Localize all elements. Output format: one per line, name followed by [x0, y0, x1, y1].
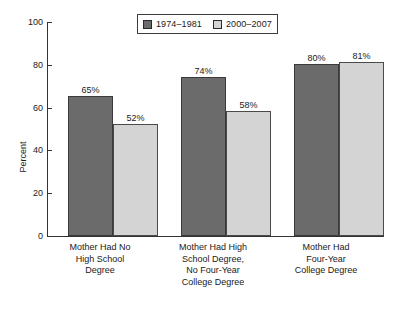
bar-group2-series2: 58%: [226, 111, 271, 236]
y-axis-line: [47, 22, 48, 237]
bar-group1-series2: 52%: [113, 124, 158, 236]
y-tick-label-20: 20: [33, 189, 43, 198]
y-tick-label-100: 100: [28, 18, 43, 27]
bar-group2-series1: 74%: [181, 77, 226, 236]
plot-area: 100 80 60 40 20 0 65% 52%: [47, 22, 384, 237]
x-axis-line: [47, 236, 384, 237]
x-axis-category-label-1: Mother Had No High School Degree: [44, 242, 156, 277]
bar-value-group2-series1: 74%: [194, 67, 212, 76]
bar-chart: 1974–1981 2000–2007 Percent 100 80 60 40: [0, 0, 403, 313]
bar-value-group3-series1: 80%: [307, 54, 325, 63]
bar-value-group1-series2: 52%: [126, 114, 144, 123]
x-axis-category-label-3: Mother Had Four-Year College Degree: [270, 242, 382, 277]
y-tick-label-0: 0: [38, 232, 43, 241]
y-tick-label-60: 60: [33, 103, 43, 112]
bar-value-group2-series2: 58%: [239, 101, 257, 110]
bar-value-group1-series1: 65%: [81, 86, 99, 95]
bar-group3-series1: 80%: [294, 64, 339, 236]
y-tick-label-80: 80: [33, 60, 43, 69]
y-axis-title: Percent: [19, 141, 28, 172]
bar-group1-series1: 65%: [68, 96, 113, 236]
y-tick-label-40: 40: [33, 146, 43, 155]
x-axis-category-label-2: Mother Had High School Degree, No Four-Y…: [157, 242, 269, 288]
bar-value-group3-series2: 81%: [352, 52, 370, 61]
bar-group3-series2: 81%: [339, 62, 384, 236]
